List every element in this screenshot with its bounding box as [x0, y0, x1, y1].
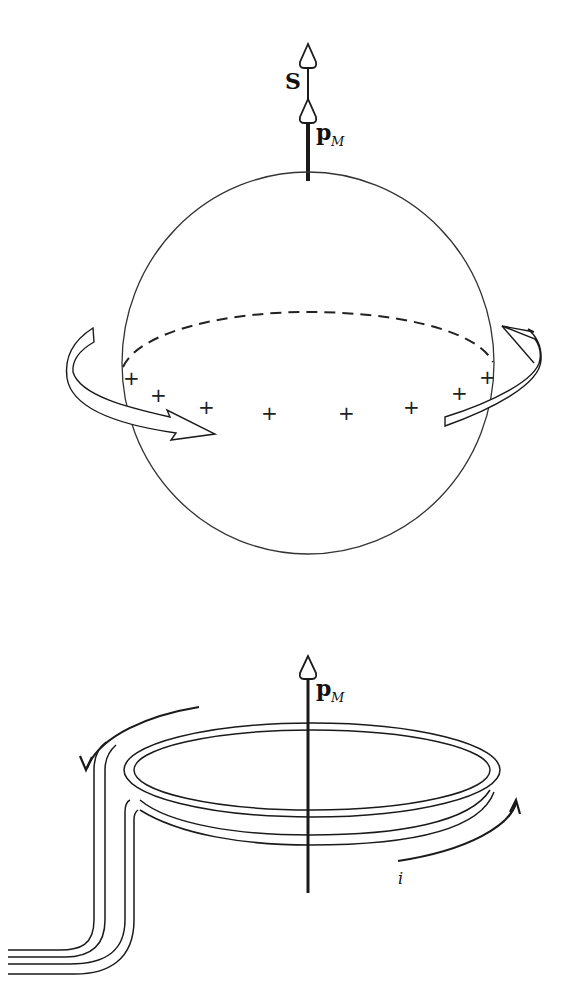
physics-diagram: S p M + + + + + + + + p M — [0, 0, 566, 998]
bottom-figure-current-loop: p M i — [8, 656, 520, 974]
loop-moment-label-subscript: M — [330, 690, 345, 705]
spin-arrowhead-icon — [300, 44, 316, 68]
moment-label-subscript: M — [330, 134, 345, 149]
spin-label: S — [285, 68, 301, 94]
current-arrow-right-icon — [398, 803, 516, 861]
loop-moment-label: p — [316, 675, 331, 701]
equator-back-dashed — [123, 312, 493, 367]
current-label: i — [398, 869, 403, 888]
loop-moment-arrowhead-icon — [300, 656, 316, 679]
top-figure-sphere: S p M + + + + + + + + — [66, 44, 541, 554]
charge-plus: + — [479, 365, 496, 389]
charge-plus: + — [338, 401, 355, 425]
rotation-arrow-left-icon — [66, 328, 215, 440]
charge-plus: + — [198, 395, 215, 419]
moment-arrowhead-icon — [300, 99, 316, 123]
charge-plus: + — [261, 401, 278, 425]
spin-axis — [300, 44, 316, 181]
current-arrow-left-icon — [87, 707, 199, 768]
moment-label: p — [316, 119, 331, 145]
charge-plus: + — [150, 383, 167, 407]
charge-plus: + — [451, 381, 468, 405]
sphere-outline — [122, 172, 494, 554]
charge-plus: + — [123, 366, 140, 390]
charge-plus: + — [403, 395, 420, 419]
